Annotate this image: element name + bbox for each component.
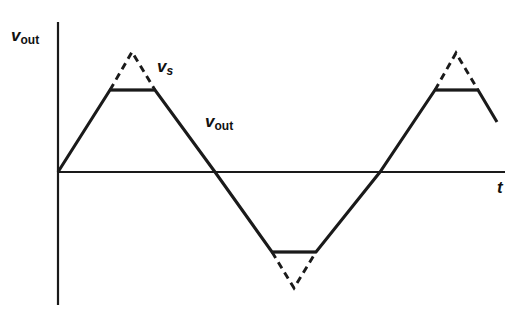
vs-curve-label-sub: s: [166, 64, 173, 78]
time-axis-label-main: t: [497, 178, 503, 197]
vs-curve-label: vs: [157, 58, 173, 75]
vout-curve-label-sub: out: [214, 119, 233, 133]
vertical-axis-label-sub: out: [20, 33, 39, 47]
waveform-figure: vout vs vout t: [0, 0, 528, 322]
waveform-canvas: [0, 0, 528, 322]
vertical-axis-label: vout: [11, 27, 39, 44]
vs-dashed-peak-1: [110, 52, 155, 90]
vs-dashed-trough: [272, 252, 316, 288]
vs-dashed-peak-2: [435, 53, 478, 90]
vout-curve-label: vout: [205, 113, 233, 130]
time-axis-label: t: [497, 179, 503, 196]
